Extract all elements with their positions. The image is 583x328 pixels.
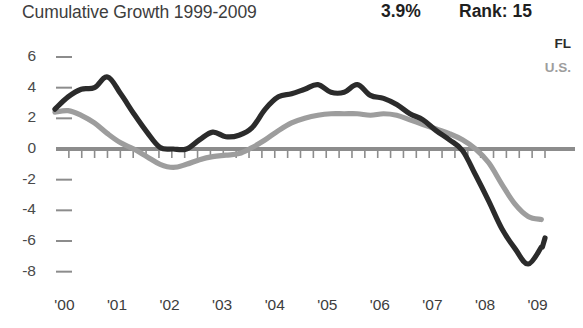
x-tick-label: '00 — [44, 296, 84, 314]
x-tick-label: '02 — [150, 296, 190, 314]
y-tick-label: -6 — [6, 232, 36, 248]
x-tick-label: '09 — [518, 296, 558, 314]
y-tick-label: 0 — [6, 140, 36, 156]
x-tick-label: '08 — [465, 296, 505, 314]
plot-area: 6420-2-4-6-8 '00'01'02'03'04'05'06'07'08… — [0, 0, 583, 328]
plot-canvas — [0, 0, 583, 328]
y-tick-label: 6 — [6, 48, 36, 64]
series-line-fl — [55, 77, 545, 264]
y-tick-label: 4 — [6, 79, 36, 95]
x-tick-label: '01 — [97, 296, 137, 314]
x-tick-label: '06 — [360, 296, 400, 314]
x-tick-label: '05 — [307, 296, 347, 314]
cumulative-growth-chart: Cumulative Growth 1999-2009 3.9% Rank: 1… — [0, 0, 583, 328]
y-tick-label: -2 — [6, 171, 36, 187]
y-tick-label: -8 — [6, 263, 36, 279]
y-tick-label: -4 — [6, 201, 36, 217]
y-tick-label: 2 — [6, 109, 36, 125]
x-tick-label: '07 — [412, 296, 452, 314]
y-axis-ticks — [56, 57, 72, 272]
x-tick-label: '04 — [255, 296, 295, 314]
x-tick-label: '03 — [202, 296, 242, 314]
